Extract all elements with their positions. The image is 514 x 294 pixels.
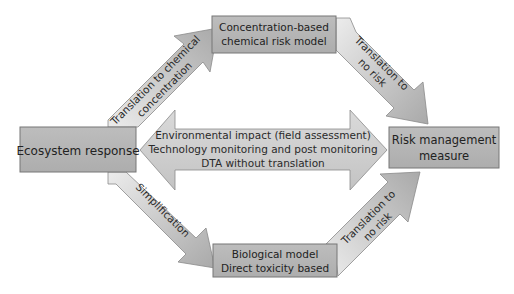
node-label-risk-2: measure bbox=[419, 149, 469, 163]
node-label-biological-1: Biological model bbox=[232, 248, 319, 260]
arrow-translation-to-chemical: Translation to chemical concentration bbox=[107, 28, 218, 137]
arrow-concentration-to-risk: Translation to no risk bbox=[336, 18, 428, 124]
node-label-concentration-2: chemical risk model bbox=[221, 35, 326, 47]
node-label-biological-2: Direct toxicity based bbox=[221, 262, 329, 274]
node-label-risk-1: Risk management bbox=[392, 133, 497, 147]
node-ecosystem-response: Ecosystem response bbox=[16, 127, 139, 172]
arrow-direct-double: Environmental impact (field assessment) … bbox=[140, 110, 387, 190]
direct-label-line1: Environmental impact (field assessment) bbox=[155, 129, 371, 141]
arrow-biological-to-risk: Translation to no risk bbox=[326, 172, 420, 278]
direct-label-line3: DTA without translation bbox=[201, 157, 324, 169]
direct-label-line2: Technology monitoring and post monitorin… bbox=[147, 143, 377, 155]
diagram-canvas: Translation to chemical concentration Tr… bbox=[0, 0, 514, 294]
node-label-concentration-1: Concentration-based bbox=[219, 21, 329, 33]
arrow-label-translation-chemical-1: Translation to chemical bbox=[107, 33, 202, 128]
node-concentration-model: Concentration-based chemical risk model bbox=[212, 16, 336, 53]
node-biological-model: Biological model Direct toxicity based bbox=[213, 244, 337, 277]
node-label-ecosystem: Ecosystem response bbox=[16, 144, 139, 158]
arrow-simplification: Simplification bbox=[108, 172, 215, 268]
node-risk-management: Risk management measure bbox=[389, 127, 499, 168]
